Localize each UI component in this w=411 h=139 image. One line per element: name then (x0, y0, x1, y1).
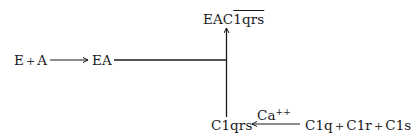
subunit-c1r: C1r (346, 117, 372, 133)
complex-ea: EA (92, 52, 112, 68)
product-prefix: EAC (203, 11, 233, 27)
plus-sign: + (24, 55, 37, 68)
complex-c1qrs: C1qrs (211, 117, 252, 133)
product-overlined: 1qrs (233, 11, 264, 27)
subunits-c1q-c1r-c1s: C1q+C1r+C1s (305, 117, 411, 135)
catalyst-base: Ca (257, 107, 276, 123)
reactant-e: E (14, 52, 24, 68)
catalyst-charge: ++ (276, 107, 291, 117)
plus-sign: + (372, 120, 385, 133)
reactants-e-plus-a: E+A (14, 52, 47, 70)
reactant-a: A (37, 52, 47, 68)
product-eac1qrs: EAC1qrs (203, 11, 264, 27)
subunit-c1s: C1s (385, 117, 411, 133)
plus-sign: + (333, 120, 346, 133)
subunit-c1q: C1q (305, 117, 333, 133)
catalyst-calcium: Ca++ (257, 104, 291, 123)
